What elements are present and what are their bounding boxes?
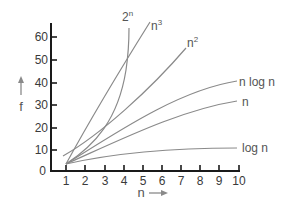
label-n-cubed: n3 [151,18,163,33]
x-tick-8: 8 [197,174,204,188]
x-tick-labels: 1 2 3 4 5 6 7 8 9 10 [63,174,246,188]
curves [63,22,237,164]
y-tick-40: 40 [35,76,49,90]
x-tick-6: 6 [159,174,166,188]
complexity-growth-chart: 60 50 40 30 20 10 0 1 2 3 4 5 6 7 8 9 10… [0,0,291,209]
y-tick-0: 0 [39,164,46,178]
y-tick-20: 20 [35,121,49,135]
label-n: n [242,95,249,109]
y-axis-label: f [19,99,23,114]
y-tick-30: 30 [35,98,49,112]
up-arrow-icon [18,76,24,83]
x-tick-9: 9 [216,174,223,188]
label-n-log-n: n log n [239,75,275,89]
label-n-squared: n2 [187,35,199,50]
curve-log-n [66,148,237,164]
curve-n [66,101,237,164]
x-tick-7: 7 [178,174,185,188]
x-axis-label: n [137,185,144,200]
x-tick-2: 2 [82,174,89,188]
x-tick-10: 10 [232,174,246,188]
x-tick-1: 1 [63,174,70,188]
y-tick-labels: 60 50 40 30 20 10 0 [35,30,49,178]
y-tick-50: 50 [35,53,49,67]
y-tick-60: 60 [35,30,49,44]
curve-n-cubed [66,22,150,164]
right-arrow-icon [161,190,168,196]
label-two-pow-n: 2n [122,9,133,24]
y-tick-10: 10 [35,143,49,157]
label-log-n: log n [242,141,268,155]
x-tick-4: 4 [121,174,128,188]
y-axis-title: f [18,76,24,114]
x-tick-3: 3 [102,174,109,188]
